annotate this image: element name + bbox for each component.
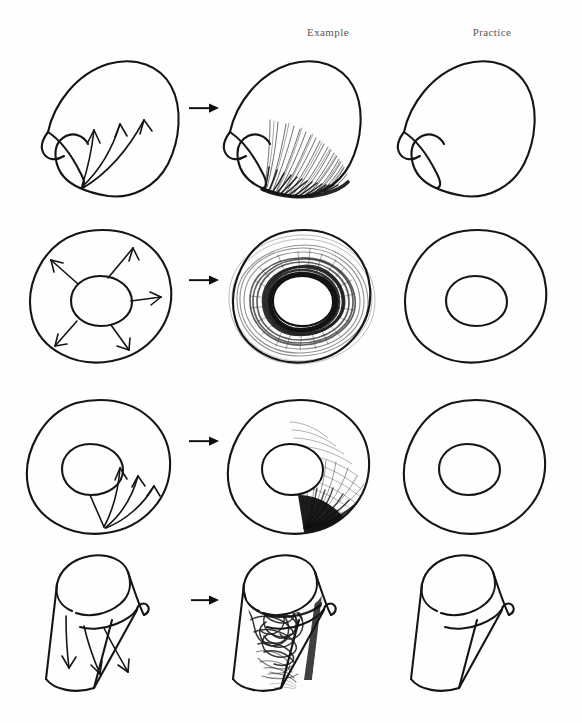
worksheet-row-2 xyxy=(0,222,582,377)
worksheet-row-1 xyxy=(0,44,582,209)
row-4-example-drawing xyxy=(212,548,392,708)
shell-outline xyxy=(224,61,361,196)
row-4-direction-diagram xyxy=(8,548,198,708)
row-3-practice-outline xyxy=(382,392,572,550)
row-2-radial-arrows xyxy=(51,248,161,350)
row-2-direction-diagram xyxy=(8,222,198,377)
row-1-direction-diagram xyxy=(8,44,198,209)
shell-outline xyxy=(398,61,535,196)
row-2-practice-outline xyxy=(382,222,572,377)
shell-outline xyxy=(42,61,179,196)
row-4-practice-outline xyxy=(382,548,572,708)
worksheet-row-4 xyxy=(0,548,582,708)
row-1-example-drawing xyxy=(212,44,392,209)
column-header-example: Example xyxy=(268,26,388,38)
row-3-direction-diagram xyxy=(8,392,198,550)
torus-outline xyxy=(404,400,545,534)
worksheet-page: Example Practice xyxy=(0,0,582,723)
row-4-down-arrows xyxy=(62,616,129,674)
shell-hatching xyxy=(262,120,348,197)
torus-outline xyxy=(405,230,546,363)
torus-inner-hole xyxy=(262,444,323,495)
torus-inner-hole xyxy=(273,276,333,326)
torus-outline xyxy=(30,230,171,363)
column-header-practice: Practice xyxy=(432,26,552,38)
row-2-example-drawing xyxy=(212,222,392,377)
row-3-example-drawing xyxy=(212,392,392,550)
row-3-sweep-arrows xyxy=(90,468,160,528)
cup-outline xyxy=(411,555,514,690)
worksheet-row-3 xyxy=(0,392,582,550)
row-1-practice-outline xyxy=(382,44,572,209)
row-1-direction-arrows xyxy=(82,120,152,188)
